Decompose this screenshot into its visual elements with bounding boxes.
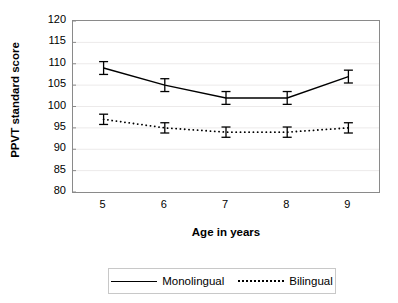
legend-item-monolingual: Monolingual: [104, 275, 231, 287]
x-tick-label: 9: [327, 199, 367, 210]
y-tick-label: 80: [30, 185, 66, 196]
y-axis-title: PPVT standard score: [4, 0, 26, 200]
y-tick-label: 90: [30, 142, 66, 153]
chart-legend: Monolingual Bilingual: [108, 268, 336, 294]
y-tick-label: 85: [30, 164, 66, 175]
error-bar: [99, 114, 108, 124]
y-tick-label: 115: [30, 35, 66, 46]
error-bar: [344, 70, 353, 83]
legend-key-solid-line-icon: [111, 281, 157, 282]
legend-label-bilingual: Bilingual: [289, 275, 332, 287]
x-tick-label: 6: [144, 199, 184, 210]
chart-figure: PPVT standard score 12011511010510095908…: [0, 0, 398, 303]
x-axis-title-text: Age in years: [192, 226, 260, 238]
y-tick-label: 95: [30, 121, 66, 132]
legend-item-bilingual: Bilingual: [231, 275, 339, 287]
x-tick-label: 5: [83, 199, 123, 210]
plot-area: [72, 20, 380, 193]
legend-label-monolingual: Monolingual: [162, 275, 224, 287]
y-tick-label: 120: [30, 14, 66, 25]
y-axis-title-text: PPVT standard score: [9, 42, 21, 158]
x-tick-label: 8: [266, 199, 306, 210]
y-tick-label: 105: [30, 78, 66, 89]
y-tick-label: 110: [30, 57, 66, 68]
x-tick-label: 7: [205, 199, 245, 210]
plot-svg: [73, 21, 379, 192]
legend-key-dotted-line-icon: [238, 280, 284, 282]
y-tick-label: 100: [30, 100, 66, 111]
x-axis-title: Age in years: [72, 226, 380, 238]
